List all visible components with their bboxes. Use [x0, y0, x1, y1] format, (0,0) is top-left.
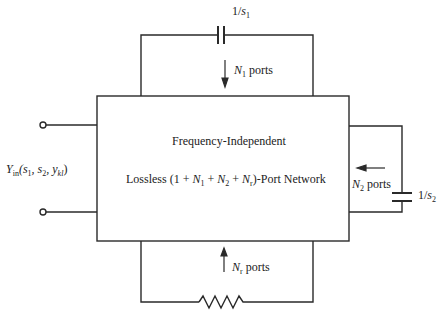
top-ports-label: N1 ports — [234, 64, 273, 79]
capacitor-icon — [392, 193, 412, 201]
network-title-line2: Lossless (1 + N1 + N2 + Nr)-Port Network — [126, 173, 326, 188]
arrow-up-head-icon — [221, 248, 227, 256]
right-capacitor-label: 1/s2 — [418, 189, 436, 204]
right-loop-bottom-wire — [349, 201, 402, 212]
right-ports-label: N2 ports — [352, 178, 391, 193]
capacitor-icon — [218, 26, 224, 44]
bottom-ports-label: Nr ports — [232, 261, 270, 276]
top-loop-left-wire — [141, 35, 218, 96]
top-capacitor-label: 1/s1 — [232, 5, 250, 20]
network-title-line1: Frequency-Independent — [172, 135, 286, 147]
circuit-diagram — [0, 0, 438, 316]
input-terminal-top — [40, 122, 46, 128]
network-box — [97, 96, 349, 241]
input-admittance-label: Yin(s1, s2, ykl) — [6, 163, 67, 178]
bottom-loop-left-wire — [141, 241, 199, 302]
arrow-left-head-icon — [357, 165, 366, 171]
resistor-icon — [199, 296, 246, 308]
arrow-down-head-icon — [222, 78, 228, 87]
input-terminal-bottom — [40, 209, 46, 215]
